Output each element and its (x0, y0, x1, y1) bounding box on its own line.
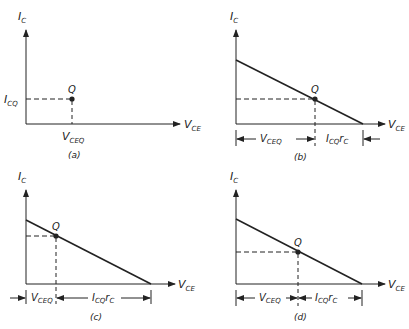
q-label: Q (68, 84, 76, 95)
y-axis-label: IC (230, 10, 238, 25)
q-label: Q (52, 221, 60, 232)
load-line (26, 220, 151, 284)
y-axis-label: IC (18, 170, 26, 185)
panel-a: Q IC VCE ICQ VCEQ (a) (4, 10, 201, 160)
x-axis-label: VCE (388, 118, 405, 133)
x-axis-label: VCE (178, 278, 195, 293)
q-point (69, 96, 74, 101)
caption-d: (d) (294, 312, 307, 322)
panel-d: Q IC VCE VCEQ ICQrC (d) (230, 170, 405, 322)
q-point (312, 96, 317, 101)
caption-b: (b) (294, 152, 307, 162)
caption-c: (c) (90, 312, 102, 322)
icq-rc-label: ICQrC (315, 292, 337, 305)
x-axis-label: VCE (388, 278, 405, 293)
vceq-label: VCEQ (259, 292, 281, 305)
caption-a: (a) (68, 150, 81, 160)
panel-c: Q IC VCE VCEQ ICQrC (c) (10, 170, 195, 322)
q-label: Q (311, 84, 319, 95)
icq-label: ICQ (4, 93, 18, 108)
q-point (53, 233, 58, 238)
vceq-label: VCEQ (31, 292, 53, 305)
icq-rc-label: ICQrC (326, 133, 348, 146)
icq-rc-label: ICQrC (92, 292, 114, 305)
vceq-label: VCEQ (62, 130, 85, 145)
panel-b: Q IC VCE VCEQ ICQrC (b) (230, 10, 405, 162)
x-axis-label: VCE (184, 118, 201, 133)
vceq-label: VCEQ (260, 133, 282, 146)
y-axis-label: IC (230, 170, 238, 185)
y-axis-label: IC (18, 10, 26, 25)
load-line (236, 60, 363, 124)
q-label: Q (294, 237, 302, 248)
load-line-diagram: Q IC VCE ICQ VCEQ (a) Q IC VCE VCEQ ICQr… (0, 0, 409, 329)
q-point (295, 249, 300, 254)
